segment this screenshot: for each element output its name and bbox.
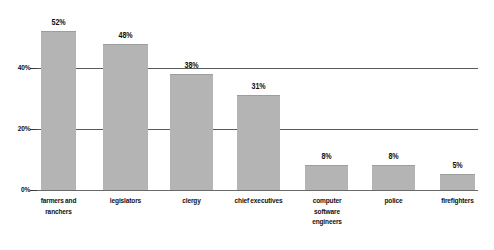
bar-computer-software-engineers[interactable]	[305, 165, 348, 190]
category-label-legislators: legislators	[98, 196, 154, 207]
tick-mark-20	[30, 129, 37, 130]
ytick-label-20: 20%	[17, 125, 30, 133]
bar-farmers-and-ranchers[interactable]	[41, 31, 76, 190]
category-label-farmers-and-ranchers: farmers and ranchers	[31, 196, 87, 217]
category-label-chief-executives: chief executives	[227, 196, 290, 207]
category-label-firefighters: firefighters	[430, 196, 486, 207]
bar-chief-executives[interactable]	[237, 95, 280, 190]
ytick-label-0: 0%	[21, 186, 30, 194]
axis-baseline-0	[36, 190, 478, 191]
bar-value-computer-software-engineers: 8%	[305, 152, 348, 161]
bar-legislators[interactable]	[103, 44, 148, 190]
plot-area: 40% 20% 0% 52% farmers and ranchers 48% …	[0, 0, 494, 250]
bar-value-farmers-and-ranchers: 52%	[37, 18, 80, 27]
bar-chart: 40% 20% 0% 52% farmers and ranchers 48% …	[0, 0, 494, 250]
category-label-police: police	[366, 196, 422, 207]
bar-police[interactable]	[372, 165, 415, 190]
bar-clergy[interactable]	[170, 74, 213, 190]
bar-value-police: 8%	[372, 152, 415, 161]
bar-value-chief-executives: 31%	[237, 82, 280, 91]
category-label-clergy: clergy	[164, 196, 220, 207]
bar-value-legislators: 48%	[104, 31, 147, 40]
tick-mark-40	[30, 68, 37, 69]
bar-value-clergy: 38%	[170, 61, 213, 70]
bar-value-firefighters: 5%	[436, 161, 479, 170]
tick-mark-0	[30, 190, 37, 191]
bar-firefighters[interactable]	[440, 174, 475, 190]
ytick-label-40: 40%	[17, 64, 30, 72]
category-label-computer-software-engineers: computer software engineers	[303, 196, 351, 228]
